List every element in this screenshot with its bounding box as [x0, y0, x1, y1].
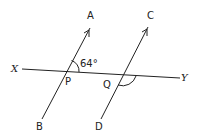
- label-x: X: [10, 63, 19, 74]
- geometry-diagram: A B C D X Y P Q 64°: [0, 0, 197, 133]
- label-y: Y: [181, 72, 189, 83]
- angle-label-p: 64°: [80, 58, 98, 69]
- angle-arc-p: [72, 61, 80, 73]
- label-a: A: [87, 10, 94, 21]
- label-d: D: [95, 121, 103, 132]
- line-cd: [101, 27, 148, 119]
- label-b: B: [36, 121, 43, 132]
- line-ab: [42, 28, 90, 119]
- label-p: P: [65, 76, 71, 87]
- diagram-svg: A B C D X Y P Q 64°: [0, 0, 197, 133]
- line-xy: [22, 69, 180, 78]
- label-q: Q: [103, 79, 111, 90]
- label-c: C: [147, 10, 154, 21]
